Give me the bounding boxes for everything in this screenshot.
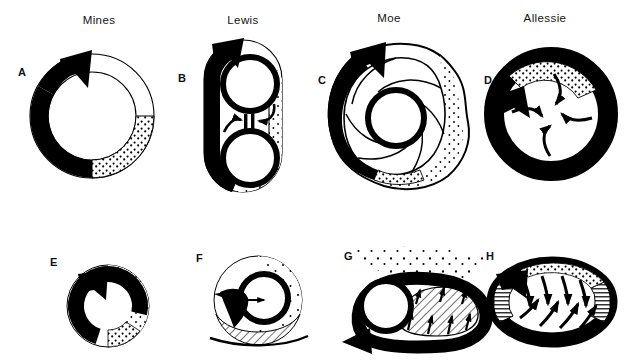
panel-letter-h: H	[486, 250, 494, 262]
centripetal-arrow-bottom	[544, 126, 550, 156]
panel-b-graphic	[168, 32, 318, 200]
panel-letter-c: C	[318, 74, 326, 86]
panel-letter-e: E	[50, 256, 58, 268]
panel-h: H	[480, 244, 630, 364]
panel-b: B	[168, 32, 318, 200]
column-title-allessie: Allessie	[524, 12, 567, 24]
panel-g: G	[336, 242, 504, 364]
panel-c: C	[308, 30, 484, 202]
figure-root: Mines Lewis Moe Allessie	[0, 0, 635, 364]
panel-letter-d: D	[484, 74, 492, 86]
panel-f-graphic	[190, 246, 330, 364]
column-title-mines: Mines	[83, 14, 116, 26]
panel-letter-g: G	[344, 250, 353, 262]
column-title-lewis: Lewis	[227, 14, 258, 26]
obstacle-circle-inferior	[223, 131, 277, 185]
panel-d-graphic	[476, 34, 626, 194]
core-circle	[361, 281, 411, 331]
panel-e: E	[44, 248, 164, 358]
collision-bar-left	[244, 114, 247, 129]
panel-g-graphic	[336, 242, 504, 364]
panel-f: F	[190, 246, 330, 364]
obstacle-circle-superior	[223, 57, 277, 111]
column-title-moe: Moe	[377, 12, 401, 24]
panel-a: A	[14, 36, 166, 196]
panel-letter-b: B	[178, 72, 186, 84]
centripetal-arrow-right	[562, 114, 592, 120]
panel-letter-a: A	[18, 66, 26, 78]
panel-a-graphic	[14, 36, 166, 196]
panel-d: D	[476, 34, 626, 194]
core-ring	[368, 90, 424, 146]
panel-h-graphic	[480, 244, 630, 364]
panel-letter-f: F	[196, 252, 203, 264]
collision-bar-right	[251, 114, 254, 129]
panel-c-graphic	[308, 30, 484, 202]
panel-e-graphic	[44, 248, 164, 358]
